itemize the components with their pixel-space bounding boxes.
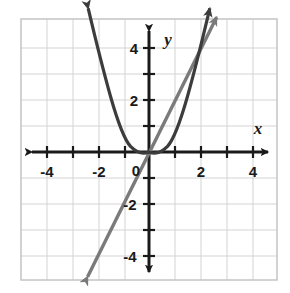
y-tick-label-neg2: -2	[123, 196, 136, 213]
origin-label: 0	[132, 162, 140, 179]
x-tick-label-neg4: -4	[40, 163, 54, 180]
coordinate-plane-figure: x y 0 -4 -2 2 4 4 2 -2 -4	[0, 0, 290, 293]
y-axis-label: y	[162, 30, 172, 49]
x-tick-label-neg2: -2	[92, 163, 105, 180]
y-tick-label-neg4: -4	[123, 248, 137, 265]
y-tick-label-pos2: 2	[130, 92, 138, 109]
x-tick-label-pos4: 4	[249, 163, 258, 180]
coordinate-graph: x y 0 -4 -2 2 4 4 2 -2 -4	[0, 0, 290, 293]
y-tick-label-pos4: 4	[130, 40, 139, 57]
x-axis-label: x	[253, 119, 263, 138]
x-tick-label-pos2: 2	[197, 163, 205, 180]
